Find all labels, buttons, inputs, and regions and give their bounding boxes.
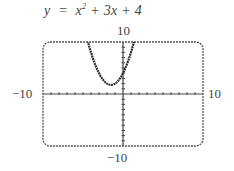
axes [43, 42, 203, 146]
graph-screen [0, 0, 234, 171]
